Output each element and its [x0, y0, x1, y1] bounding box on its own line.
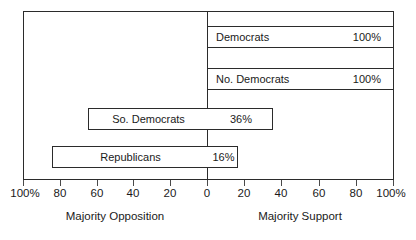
axis-tick — [393, 180, 394, 186]
axis-tick-label: 80 — [350, 188, 363, 200]
axis-tick — [97, 180, 98, 186]
bar-value-so-democrats: 36% — [208, 114, 274, 125]
axis-tick-label: 40 — [275, 188, 288, 200]
axis-tick — [23, 180, 24, 186]
axis-tick — [319, 180, 320, 186]
axis-tick-label: 60 — [313, 188, 326, 200]
axis-tick — [60, 180, 61, 186]
bar-democrats: Democrats 100% — [207, 26, 394, 48]
axis-tick-label: 20 — [164, 188, 177, 200]
bar-value-democrats: 100% — [353, 32, 381, 43]
axis-tick — [207, 180, 208, 186]
axis-tick — [356, 180, 357, 186]
caption-majority-support: Majority Support — [258, 211, 342, 223]
bar-label-no-democrats: No. Democrats — [216, 74, 289, 85]
bar-value-no-democrats: 100% — [353, 74, 381, 85]
chart-container: Democrats 100% No. Democrats 100% So. De… — [0, 0, 416, 240]
axis-tick-label: 80 — [54, 188, 67, 200]
bar-no-democrats: No. Democrats 100% — [207, 68, 394, 90]
axis-tick-label: 0 — [204, 188, 210, 200]
axis-tick — [133, 180, 134, 186]
bar-label-republicans: Republicans — [53, 152, 208, 163]
bar-label-democrats: Democrats — [216, 32, 269, 43]
caption-majority-opposition: Majority Opposition — [66, 211, 164, 223]
axis-tick-label: 40 — [127, 188, 140, 200]
bar-republicans: Republicans 16% — [52, 146, 238, 168]
bar-label-so-democrats: So. Democrats — [89, 114, 208, 125]
axis-tick-label: 60 — [91, 188, 104, 200]
axis-tick-label: 20 — [238, 188, 251, 200]
axis-tick — [244, 180, 245, 186]
axis-tick — [281, 180, 282, 186]
bar-value-republicans: 16% — [208, 152, 239, 163]
axis-tick-label: 100% — [10, 188, 39, 200]
axis-tick — [170, 180, 171, 186]
axis-tick-label: 100% — [376, 188, 405, 200]
bar-so-democrats: So. Democrats 36% — [88, 108, 273, 130]
